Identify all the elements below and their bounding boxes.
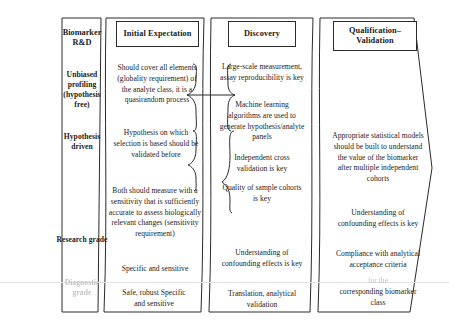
row-label-research-grade: Research grade (56, 235, 108, 245)
column-header-initial-expectation: Initial Expectation (116, 21, 199, 47)
block-discovery-sample-cohorts: Quality of sample cohorts is key (221, 183, 303, 205)
biomarker-rnd-diagram: Biomarker R&D Unbiased profiling (hypoth… (0, 0, 449, 332)
block-qualification-for-the: for the (334, 276, 422, 287)
column-header-qualification-validation: Qualification– Validation (333, 21, 417, 51)
block-discovery-confounding: Understanding of confounding effects is … (219, 248, 305, 270)
block-qualification-biomarker-class: corresponding biomarker class (334, 287, 422, 309)
column-header-biomarker-rnd: Biomarker R&D (62, 28, 102, 49)
column-header-discovery: Discovery (228, 21, 296, 47)
block-initial-expectation-safe-robust: Safe, robust Specific and sensitive (116, 288, 192, 310)
row-label-diagnostic-grade: Diagnostic grade (56, 278, 108, 298)
block-discovery-cross-validation: Independent cross validation is key (219, 153, 305, 175)
block-discovery-translation: Translation, analytical validation (214, 289, 310, 311)
block-qualification-compliance: Compliance with analytical acceptance cr… (334, 249, 422, 271)
block-initial-expectation-globality: Should cover all elements (globality req… (112, 63, 202, 106)
panel-outline-biomarker-rnd (62, 18, 101, 312)
block-discovery-large-scale: Large-scale measurement, assay reproduci… (216, 62, 308, 84)
block-initial-expectation-hypothesis-validation: Hypothesis on which selection is based s… (112, 128, 200, 160)
row-label-unbiased-profiling: Unbiased profiling (hypothesis free) (56, 70, 108, 109)
block-qualification-confounding: Understanding of confounding effects is … (334, 208, 422, 230)
block-initial-expectation-specific-sensitive: Specific and sensitive (110, 264, 200, 275)
block-discovery-machine-learning: Machine learning algorithms are used to … (218, 100, 306, 143)
block-qualification-statistical-models: Appropriate statistical models should be… (332, 131, 424, 185)
row-label-hypothesis-driven: Hypothesis driven (56, 132, 108, 152)
block-initial-expectation-sensitivity: Both should measure with a sensitivity t… (108, 186, 202, 240)
